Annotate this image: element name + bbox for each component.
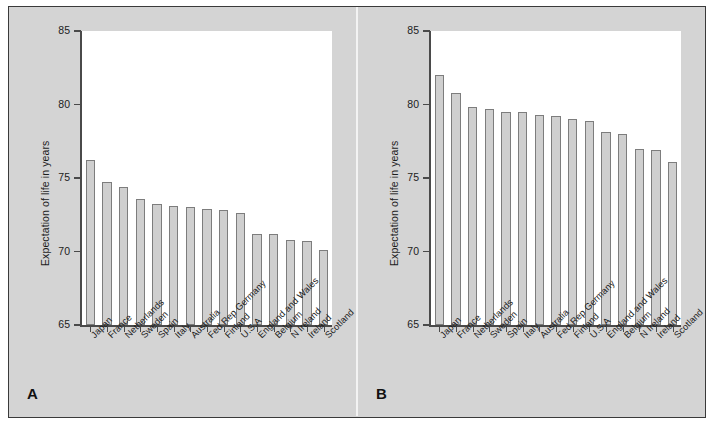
y-axis-line — [429, 31, 431, 327]
bar — [518, 112, 528, 325]
bar — [551, 116, 561, 325]
bar — [468, 107, 478, 325]
y-tick-mark — [423, 177, 430, 179]
y-tick-label: 80 — [397, 99, 419, 110]
chart-panel-b: Expectation of life in years 6570758085 … — [358, 7, 705, 416]
y-tick-label: 75 — [397, 172, 419, 183]
bar — [136, 199, 146, 325]
bar — [501, 112, 511, 325]
y-tick-mark — [423, 104, 430, 106]
y-tick-mark — [74, 30, 81, 32]
y-tick-label: 70 — [48, 246, 70, 257]
y-tick-mark — [423, 251, 430, 253]
y-tick-mark — [74, 177, 81, 179]
y-tick-label: 70 — [397, 246, 419, 257]
bar — [119, 187, 129, 325]
bar — [451, 93, 461, 325]
chart-panel-a: Expectation of life in years 6570758085 … — [9, 7, 356, 416]
figure-frame: Expectation of life in years 6570758085 … — [8, 6, 706, 418]
y-tick-mark — [74, 324, 81, 326]
panel-letter-b: B — [376, 385, 387, 402]
y-tick-label: 85 — [397, 25, 419, 36]
bar — [568, 119, 578, 325]
panel-letter-a: A — [27, 385, 38, 402]
y-tick-label: 80 — [48, 99, 70, 110]
y-tick-label: 85 — [48, 25, 70, 36]
y-tick-label: 65 — [397, 319, 419, 330]
y-tick-label: 65 — [48, 319, 70, 330]
y-tick-mark — [74, 251, 81, 253]
y-tick-mark — [423, 30, 430, 32]
bar — [618, 134, 628, 325]
bar — [485, 109, 495, 325]
bar — [86, 160, 96, 325]
bar — [219, 210, 229, 325]
y-axis-line — [80, 31, 82, 327]
y-tick-mark — [423, 324, 430, 326]
bar — [169, 206, 179, 325]
bar — [535, 115, 545, 325]
bar — [102, 182, 112, 325]
bar — [186, 207, 196, 325]
y-tick-mark — [74, 104, 81, 106]
bar — [668, 162, 678, 325]
bar — [202, 209, 212, 325]
y-tick-label: 75 — [48, 172, 70, 183]
bar — [435, 75, 445, 325]
